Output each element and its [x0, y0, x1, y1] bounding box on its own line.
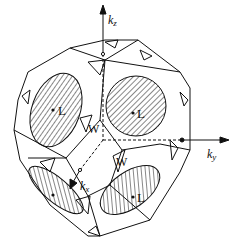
kz-arrow-icon [100, 5, 106, 14]
l-label-lower-right: L [137, 190, 145, 205]
w-label-lower: W [116, 155, 128, 169]
belly-upper-right [106, 76, 166, 136]
brillouin-zone-diagram: kz ky kx L L L W W [0, 0, 237, 247]
ky-label: ky [207, 147, 216, 162]
l-label-upper-left: L [58, 103, 66, 118]
l-label-upper-right: L [137, 106, 145, 121]
ky-arrow-icon [220, 137, 229, 143]
kx-axis-inner [80, 140, 103, 170]
belly-lower-right [92, 156, 168, 224]
kz-label: kz [108, 13, 117, 28]
fermi-surface-bellies [20, 66, 168, 224]
kx-arrow-icon [70, 179, 77, 189]
w-label-center: W [88, 122, 100, 136]
kx-label: kx [80, 179, 89, 194]
